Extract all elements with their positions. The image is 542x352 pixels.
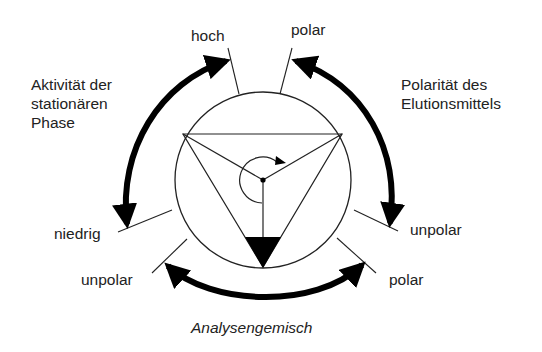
pointer-tip-icon <box>245 237 281 268</box>
label-hoch: hoch <box>191 26 225 45</box>
tick-polar-top <box>280 48 292 94</box>
rotation-arrow-icon <box>240 157 277 203</box>
label-polar-top: polar <box>291 20 325 39</box>
pivot-dot <box>260 177 265 182</box>
activity-arrow-icon <box>126 61 226 224</box>
label-niedrig: niedrig <box>54 224 101 243</box>
label-unpolar-right: unpolar <box>410 220 462 239</box>
label-analyte-title: Analysengemisch <box>191 318 312 337</box>
label-polarity-title: Polarität des Elutionsmittels <box>401 75 501 113</box>
label-unpolar-left: unpolar <box>81 270 133 289</box>
eluent-polarity-arrow-icon <box>296 61 392 223</box>
label-polar-bottom: polar <box>389 270 423 289</box>
label-activity-title: Aktivität der stationären Phase <box>31 75 112 132</box>
rotation-arrowhead-icon <box>275 156 286 165</box>
analyte-arrow-icon <box>168 265 362 297</box>
diagram-canvas <box>0 0 542 352</box>
triangle-spokes <box>183 134 342 240</box>
tick-hoch <box>228 48 239 94</box>
